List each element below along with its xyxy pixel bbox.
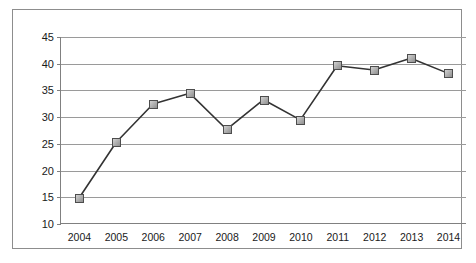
data-point-marker <box>444 69 453 78</box>
chart-frame: 1015202530354045 20042005200620072008200… <box>12 9 462 249</box>
y-axis-tick-label: 20 <box>42 165 54 176</box>
x-axis-tick-label: 2009 <box>252 232 275 243</box>
data-point-marker <box>370 66 379 75</box>
y-axis-tick-label: 15 <box>42 192 54 203</box>
data-point-marker <box>186 89 195 98</box>
series-line <box>79 58 447 197</box>
y-axis-tick-label: 35 <box>42 85 54 96</box>
y-axis-tick-label: 25 <box>42 138 54 149</box>
y-axis-tick-label: 40 <box>42 58 54 69</box>
data-point-marker <box>260 96 269 105</box>
x-axis-tick-label: 2010 <box>289 232 312 243</box>
x-axis-tick-label: 2007 <box>178 232 201 243</box>
data-point-marker <box>223 125 232 134</box>
x-axis-tick-label: 2005 <box>105 232 128 243</box>
y-axis-tick-mark <box>57 224 61 225</box>
x-axis-tick-label: 2008 <box>215 232 238 243</box>
x-axis-tick-label: 2012 <box>363 232 386 243</box>
line-series-svg <box>61 37 466 223</box>
data-point-marker <box>75 194 84 203</box>
data-point-marker <box>149 100 158 109</box>
x-axis-tick-label: 2006 <box>142 232 165 243</box>
x-axis-tick-label: 2014 <box>437 232 460 243</box>
y-axis-tick-label: 10 <box>42 219 54 230</box>
chart-figure: 1015202530354045 20042005200620072008200… <box>0 0 476 263</box>
data-point-marker <box>333 61 342 70</box>
y-axis-tick-label: 30 <box>42 112 54 123</box>
x-axis-tick-label: 2004 <box>68 232 91 243</box>
x-axis-tick-label: 2011 <box>327 232 350 243</box>
data-point-marker <box>112 138 121 147</box>
x-axis-tick-label: 2013 <box>400 232 423 243</box>
y-axis-tick-label: 45 <box>42 32 54 43</box>
plot-area: 1015202530354045 20042005200620072008200… <box>60 37 466 224</box>
data-point-marker <box>407 54 416 63</box>
data-point-marker <box>296 116 305 125</box>
